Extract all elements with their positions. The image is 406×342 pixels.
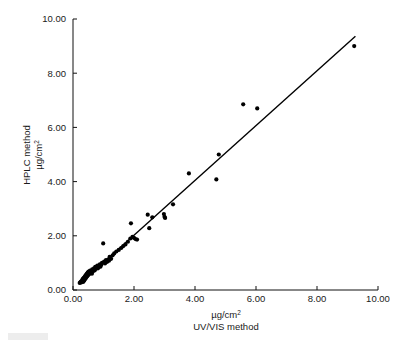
y-axis-title-name: HPLC method: [21, 125, 32, 185]
data-point: [163, 216, 167, 220]
y-tick-label: 8.00: [48, 68, 67, 79]
data-point: [101, 241, 105, 245]
y-tick-label: 0.00: [48, 284, 67, 295]
page-edge-artifact: [8, 333, 48, 340]
y-tick-label: 2.00: [48, 230, 67, 241]
data-point: [146, 213, 150, 217]
scatter-chart-figure: 0.002.004.006.008.0010.00 0.002.004.006.…: [0, 0, 406, 342]
x-tick-label: 10.00: [366, 293, 390, 304]
x-tick-label: 4.00: [186, 293, 205, 304]
data-point: [129, 221, 133, 225]
data-point: [171, 202, 175, 206]
x-tick-label: 6.00: [247, 293, 266, 304]
data-point: [241, 102, 245, 106]
x-axis-title-name: UV/VIS method: [193, 321, 258, 332]
data-point: [214, 177, 218, 181]
data-point: [187, 171, 191, 175]
data-point: [147, 226, 151, 230]
data-point: [135, 237, 139, 241]
y-tick-label: 4.00: [48, 176, 67, 187]
data-point: [217, 152, 221, 156]
x-tick-label: 8.00: [308, 293, 327, 304]
x-tick-label: 2.00: [125, 293, 144, 304]
y-axis-title-units: µg/cm2: [33, 140, 44, 170]
x-axis-title-units: µg/cm2: [211, 309, 241, 320]
x-tick-label: 0.00: [64, 293, 83, 304]
data-point: [352, 44, 356, 48]
y-tick-label: 10.00: [42, 13, 66, 24]
data-point: [255, 106, 259, 110]
y-tick-label: 6.00: [48, 122, 67, 133]
scatter-plot-canvas: 0.002.004.006.008.0010.00 0.002.004.006.…: [0, 0, 406, 342]
